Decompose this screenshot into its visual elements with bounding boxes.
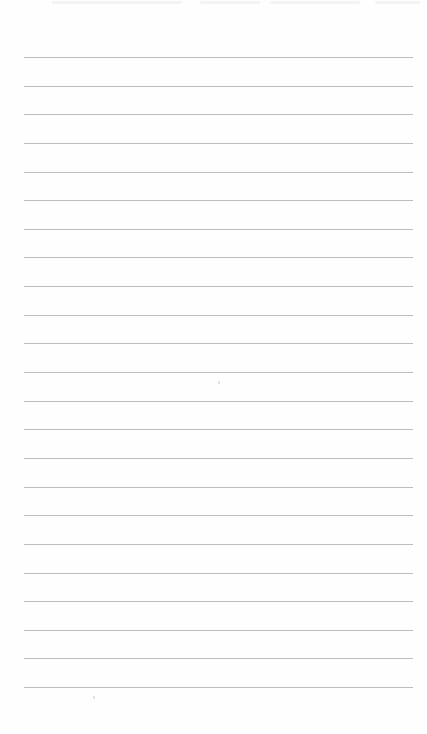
ruled-line <box>24 257 413 258</box>
ruled-line <box>24 687 413 688</box>
ruled-line <box>24 143 413 144</box>
scan-speck <box>218 381 220 384</box>
ruled-line <box>24 372 413 373</box>
scan-speck <box>93 696 95 699</box>
scan-bleed-through <box>20 0 420 14</box>
ruled-line <box>24 315 413 316</box>
ruled-line <box>24 429 413 430</box>
ruled-line <box>24 172 413 173</box>
ruled-line <box>24 229 413 230</box>
ruled-line <box>24 86 413 87</box>
ruled-line <box>24 200 413 201</box>
ruled-line <box>24 114 413 115</box>
ruled-line <box>24 487 413 488</box>
ruled-line <box>24 630 413 631</box>
ruled-line <box>24 286 413 287</box>
ruled-line <box>24 658 413 659</box>
ruled-line <box>24 401 413 402</box>
ruled-line <box>24 544 413 545</box>
lined-paper-page <box>0 0 427 734</box>
ruled-line <box>24 458 413 459</box>
ruled-line <box>24 57 413 58</box>
ruled-line <box>24 515 413 516</box>
ruled-line <box>24 573 413 574</box>
ruled-line <box>24 343 413 344</box>
ruled-line <box>24 601 413 602</box>
